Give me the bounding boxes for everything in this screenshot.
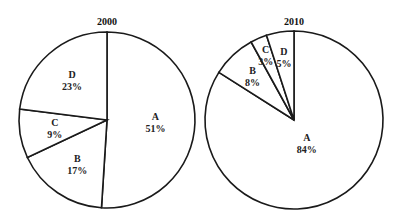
pie-chart-2000: A51%B17%C9%D23%2000: [19, 16, 195, 208]
slice-category-label: A: [303, 132, 311, 143]
slice-percent-label: 9%: [47, 129, 62, 140]
slice-percent-label: 3%: [258, 56, 273, 67]
pie-charts: A51%B17%C9%D23%2000 A84%B8%C3%D5%2010: [0, 0, 394, 222]
slice-percent-label: 23%: [62, 81, 82, 92]
slice-percent-label: 84%: [297, 144, 317, 155]
slice-percent-label: 8%: [245, 77, 260, 88]
chart-title: 2000: [97, 16, 117, 27]
slice-category-label: B: [249, 65, 256, 76]
chart-title: 2010: [284, 16, 304, 27]
slice-category-label: B: [74, 153, 81, 164]
slice-category-label: D: [280, 46, 287, 57]
pie-slice-a: [101, 32, 195, 208]
slice-percent-label: 51%: [145, 123, 165, 134]
slice-category-label: A: [152, 111, 160, 122]
slice-percent-label: 17%: [67, 165, 87, 176]
slice-category-label: C: [51, 117, 58, 128]
pie-slice-d: [20, 32, 107, 120]
pie-chart-2010: A84%B8%C3%D5%2010: [205, 16, 383, 209]
slice-category-label: C: [262, 44, 269, 55]
slice-category-label: D: [68, 69, 75, 80]
slice-percent-label: 5%: [276, 58, 291, 69]
